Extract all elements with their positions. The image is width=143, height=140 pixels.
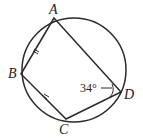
tick-mark-bc-2 (44, 94, 49, 97)
vertex-label-d: D (123, 87, 134, 102)
quadrilateral-abcd (21, 18, 121, 119)
circumcircle (22, 18, 126, 122)
angle-label-d: 34° (80, 81, 97, 95)
vertex-label-c: C (59, 122, 69, 137)
vertex-label-b: B (8, 66, 17, 81)
vertex-label-a: A (48, 2, 58, 17)
cyclic-quadrilateral-diagram: 34° A B C D (0, 0, 143, 140)
angle-arc-d (110, 84, 113, 97)
